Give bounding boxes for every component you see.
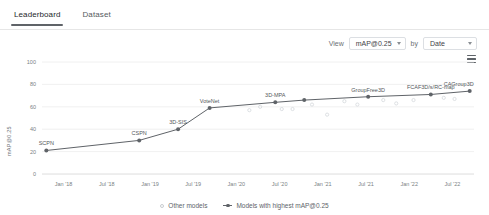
other-model-point[interactable] bbox=[280, 107, 283, 110]
x-axis-tick-label: Jan '20 bbox=[228, 181, 246, 187]
model-point-label: SCPN bbox=[39, 140, 54, 146]
x-axis-tick-label: Jul '19 bbox=[185, 181, 201, 187]
metric-select[interactable]: mAP@0.25 bbox=[349, 37, 406, 50]
chart-area: mAP@0.25 020406080100Jan '18Jul '18Jan '… bbox=[0, 52, 489, 215]
metric-select-value: mAP@0.25 bbox=[356, 40, 392, 47]
by-label: by bbox=[411, 40, 418, 47]
model-point-label: CAGroup3D bbox=[444, 81, 474, 87]
tabbar: Leaderboard Dataset bbox=[0, 0, 489, 30]
x-axis-tick-label: Jul '18 bbox=[99, 181, 115, 187]
best-model-point[interactable] bbox=[302, 98, 306, 102]
x-axis-tick-label: Jul '20 bbox=[272, 181, 288, 187]
tab-dataset[interactable]: Dataset bbox=[82, 10, 110, 26]
other-model-point[interactable] bbox=[453, 97, 456, 100]
other-model-point[interactable] bbox=[248, 109, 251, 112]
other-model-point[interactable] bbox=[382, 98, 385, 101]
tab-leaderboard[interactable]: Leaderboard bbox=[14, 10, 60, 26]
chevron-down-icon bbox=[397, 42, 401, 45]
y-axis-tick-label: 40 bbox=[30, 126, 36, 132]
other-model-point[interactable] bbox=[310, 103, 313, 106]
best-model-point[interactable] bbox=[468, 89, 472, 93]
x-axis-tick-label: Jul '21 bbox=[358, 181, 374, 187]
x-axis-tick-label: Jul '22 bbox=[445, 181, 461, 187]
tab-dataset-label: Dataset bbox=[82, 10, 110, 19]
other-model-point[interactable] bbox=[343, 100, 346, 103]
best-model-point[interactable] bbox=[208, 106, 212, 110]
y-axis-tick-label: 0 bbox=[33, 171, 36, 177]
other-model-point[interactable] bbox=[291, 107, 294, 110]
model-point-label: CSPN bbox=[132, 130, 147, 136]
legend-label-best-models: Models with highest mAP@0.25 bbox=[236, 202, 328, 209]
leaderboard-line-chart[interactable]: 020406080100Jan '18Jul '18Jan '19Jul '19… bbox=[0, 52, 489, 215]
legend-item-other-models[interactable]: Other models bbox=[160, 202, 207, 209]
best-model-point[interactable] bbox=[137, 138, 141, 142]
model-point-label: 3D-MPA bbox=[265, 92, 286, 98]
legend-item-best-models[interactable]: Models with highest mAP@0.25 bbox=[223, 202, 328, 209]
leaderboard-page: Leaderboard Dataset View mAP@0.25 by Dat… bbox=[0, 0, 489, 215]
other-model-point[interactable] bbox=[395, 102, 398, 105]
open-circle-marker-icon bbox=[160, 204, 164, 208]
model-point-label: 3D-SIS bbox=[169, 119, 187, 125]
chevron-down-icon bbox=[468, 42, 472, 45]
sort-select-value: Date bbox=[430, 40, 445, 47]
y-axis-tick-label: 60 bbox=[30, 104, 36, 110]
best-model-point[interactable] bbox=[273, 100, 277, 104]
y-axis-tick-label: 80 bbox=[30, 81, 36, 87]
y-axis-tick-label: 20 bbox=[30, 149, 36, 155]
legend-label-other-models: Other models bbox=[168, 202, 207, 209]
sort-select[interactable]: Date bbox=[423, 37, 477, 50]
line-marker-icon bbox=[223, 203, 232, 208]
other-model-point[interactable] bbox=[412, 98, 415, 101]
best-model-point[interactable] bbox=[429, 92, 433, 96]
other-model-point[interactable] bbox=[442, 96, 445, 99]
model-point-label: GroupFree3D bbox=[351, 87, 385, 93]
tab-leaderboard-label: Leaderboard bbox=[14, 10, 60, 19]
model-point-label: VoteNet bbox=[200, 98, 220, 104]
x-axis-tick-label: Jan '19 bbox=[141, 181, 159, 187]
other-model-point[interactable] bbox=[356, 103, 359, 106]
best-model-point[interactable] bbox=[176, 127, 180, 131]
best-model-point[interactable] bbox=[366, 95, 370, 99]
best-models-line bbox=[46, 91, 469, 150]
chart-legend: Other models Models with highest mAP@0.2… bbox=[0, 202, 489, 209]
y-axis-tick-label: 100 bbox=[27, 59, 36, 65]
x-axis-tick-label: Jan '21 bbox=[314, 181, 332, 187]
best-model-point[interactable] bbox=[44, 148, 48, 152]
x-axis-tick-label: Jan '22 bbox=[400, 181, 418, 187]
y-axis-label: mAP@0.25 bbox=[6, 126, 12, 156]
other-model-point[interactable] bbox=[326, 113, 329, 116]
x-axis-tick-label: Jan '18 bbox=[55, 181, 73, 187]
view-label: View bbox=[329, 40, 344, 47]
